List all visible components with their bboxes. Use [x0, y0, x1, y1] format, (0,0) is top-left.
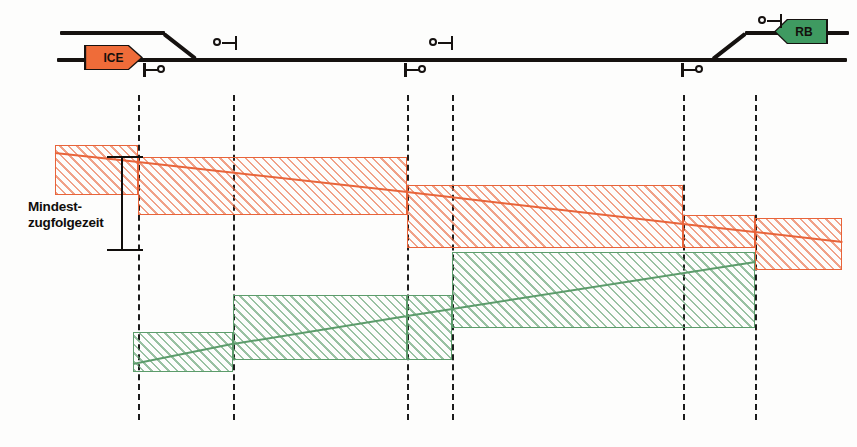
signal-icon-3[interactable] [404, 63, 428, 77]
blocking-block-ice-4 [683, 215, 755, 248]
signal-arm [767, 20, 781, 23]
signal-icon-5[interactable] [681, 63, 705, 77]
main-rail-lower [57, 58, 847, 62]
signal-icon-4[interactable] [429, 36, 453, 50]
signal-lamp [429, 38, 437, 46]
signal-arm [144, 69, 158, 72]
train-label-ice: ICE [84, 45, 143, 70]
signal-lamp [157, 65, 165, 73]
signal-arm [405, 69, 419, 72]
blocking-block-rb-3 [407, 295, 452, 360]
block-boundary-3 [407, 95, 409, 420]
signal-lamp [213, 38, 221, 46]
signal-lamp [418, 65, 426, 73]
blocking-block-rb-4 [452, 252, 755, 328]
signal-arm [438, 42, 452, 45]
turnout-right [712, 32, 747, 60]
signal-lamp [758, 16, 766, 24]
figure-caption [0, 435, 857, 447]
signal-icon-6[interactable] [758, 14, 782, 28]
figure-root: ICE RB [0, 0, 857, 447]
signal-arm [222, 42, 236, 45]
signal-icon-2[interactable] [213, 36, 237, 50]
dimension-cap-top [107, 156, 143, 158]
train-marker-rb[interactable]: RB [774, 19, 828, 44]
train-label-rb: RB [774, 19, 828, 44]
signal-arm [682, 69, 696, 72]
siding-rail-left [60, 31, 165, 35]
dimension-cap-bottom [107, 249, 143, 251]
turnout-left [163, 32, 197, 60]
blocking-time-diagram: Mindest- zugfolgezeit [0, 95, 857, 425]
train-marker-ice[interactable]: ICE [84, 45, 143, 70]
blocking-block-ice-5 [755, 218, 842, 270]
dimension-label-line1: Mindest- [28, 199, 123, 215]
blocking-block-ice-3 [407, 185, 683, 248]
track-schematic: ICE RB [0, 0, 857, 95]
blocking-block-rb-2 [233, 295, 407, 360]
block-boundary-2 [233, 95, 235, 420]
signal-lamp [695, 65, 703, 73]
dimension-label-line2: zugfolgezeit [28, 215, 123, 231]
signal-icon-1[interactable] [143, 63, 167, 77]
